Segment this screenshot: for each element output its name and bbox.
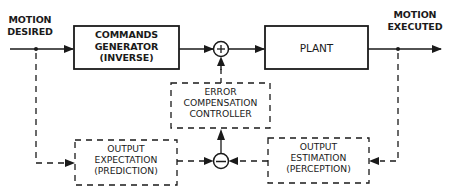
output-estimation-line3: (PERCEPTION) bbox=[268, 163, 369, 174]
commands-generator-line2: GENERATOR bbox=[74, 41, 179, 53]
output-estimation-label: OUTPUT ESTIMATION (PERCEPTION) bbox=[268, 141, 369, 175]
output-estimation-line2: ESTIMATION bbox=[268, 152, 369, 163]
output-label-line2: EXECUTED bbox=[382, 21, 448, 33]
error-compensation-line3: CONTROLLER bbox=[171, 108, 270, 119]
input-pickoff-dot bbox=[34, 47, 38, 51]
input-label-line2: DESIRED bbox=[0, 26, 60, 38]
arrow-into-sum-bottom-right bbox=[229, 157, 239, 165]
arrow-into-sum-bottom-left bbox=[204, 157, 214, 165]
arrow-into-sum-top bbox=[217, 57, 225, 67]
prediction-path-line bbox=[36, 53, 66, 163]
perception-path-line bbox=[380, 53, 398, 161]
output-pickoff-dot bbox=[396, 47, 400, 51]
error-compensation-label: ERROR COMPENSATION CONTROLLER bbox=[171, 86, 270, 120]
commands-generator-line1: COMMANDS bbox=[74, 29, 179, 41]
arrow-into-estimation bbox=[369, 157, 379, 165]
output-label: MOTION EXECUTED bbox=[382, 9, 448, 32]
plant-label: PLANT bbox=[265, 42, 368, 55]
arrow-into-controller bbox=[217, 129, 225, 140]
arrow-into-expectation bbox=[65, 159, 75, 167]
control-block-diagram: MOTION DESIRED MOTION EXECUTED COMMANDS … bbox=[0, 0, 450, 195]
output-expectation-line2: EXPECTATION bbox=[75, 154, 177, 165]
error-compensation-line2: COMPENSATION bbox=[171, 97, 270, 108]
input-label-line1: MOTION bbox=[0, 14, 60, 26]
output-expectation-line1: OUTPUT bbox=[75, 143, 177, 154]
error-compensation-line1: ERROR bbox=[171, 86, 270, 97]
output-estimation-line1: OUTPUT bbox=[268, 141, 369, 152]
input-label: MOTION DESIRED bbox=[0, 14, 60, 37]
output-label-line1: MOTION bbox=[382, 9, 448, 21]
output-expectation-label: OUTPUT EXPECTATION (PREDICTION) bbox=[75, 143, 177, 177]
output-expectation-line3: (PREDICTION) bbox=[75, 165, 177, 176]
plant-line1: PLANT bbox=[265, 42, 368, 55]
commands-generator-line3: (INVERSE) bbox=[74, 52, 179, 64]
commands-generator-label: COMMANDS GENERATOR (INVERSE) bbox=[74, 29, 179, 64]
